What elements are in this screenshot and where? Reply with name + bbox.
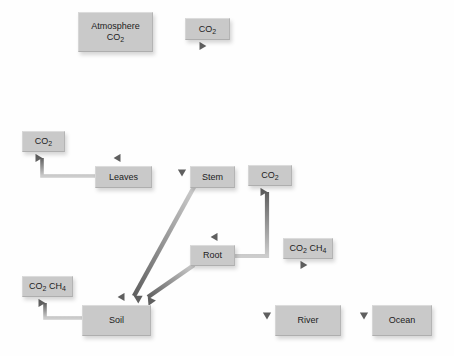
flow-leaves-to-co2-left xyxy=(42,158,95,176)
node-co2-left[interactable]: CO2 xyxy=(22,131,65,152)
node-atmosphere[interactable]: Atmosphere CO2 xyxy=(78,12,153,52)
node-stem[interactable]: Stem xyxy=(190,166,235,188)
flow-root-to-co2-right xyxy=(233,192,267,256)
node-atmosphere-label-2: CO2 xyxy=(91,32,140,43)
carbon-cycle-diagram: Atmosphere CO2 CO2 CO2 Leaves Stem CO2 R… xyxy=(0,0,454,356)
node-atmosphere-label-1: Atmosphere xyxy=(91,21,140,32)
node-root[interactable]: Root xyxy=(190,245,235,266)
node-co2-right-label: CO2 xyxy=(261,170,278,181)
node-leaves-label: Leaves xyxy=(109,172,138,183)
node-soil-label: Soil xyxy=(109,315,124,326)
flow-root-to-soil xyxy=(148,265,194,297)
node-co2ch4-right-label: CO2 CH4 xyxy=(290,243,327,254)
node-co2-top[interactable]: CO2 xyxy=(185,18,230,40)
node-stem-label: Stem xyxy=(202,172,223,183)
node-co2ch4-right[interactable]: CO2 CH4 xyxy=(283,238,333,259)
flow-stem-to-soil xyxy=(134,187,194,296)
node-leaves[interactable]: Leaves xyxy=(95,166,152,188)
node-co2-top-label: CO2 xyxy=(199,24,216,35)
node-root-label: Root xyxy=(203,250,222,261)
node-co2ch4-left-label: CO2 CH4 xyxy=(29,281,66,292)
flow-soil-to-co2ch4-left xyxy=(45,303,82,318)
node-ocean[interactable]: Ocean xyxy=(372,305,432,336)
node-soil[interactable]: Soil xyxy=(82,305,151,336)
node-co2-left-label: CO2 xyxy=(35,136,52,147)
node-river[interactable]: River xyxy=(275,305,341,336)
node-co2ch4-left[interactable]: CO2 CH4 xyxy=(22,276,73,297)
node-ocean-label: Ocean xyxy=(389,315,416,326)
node-river-label: River xyxy=(297,315,318,326)
node-co2-right[interactable]: CO2 xyxy=(248,165,292,186)
